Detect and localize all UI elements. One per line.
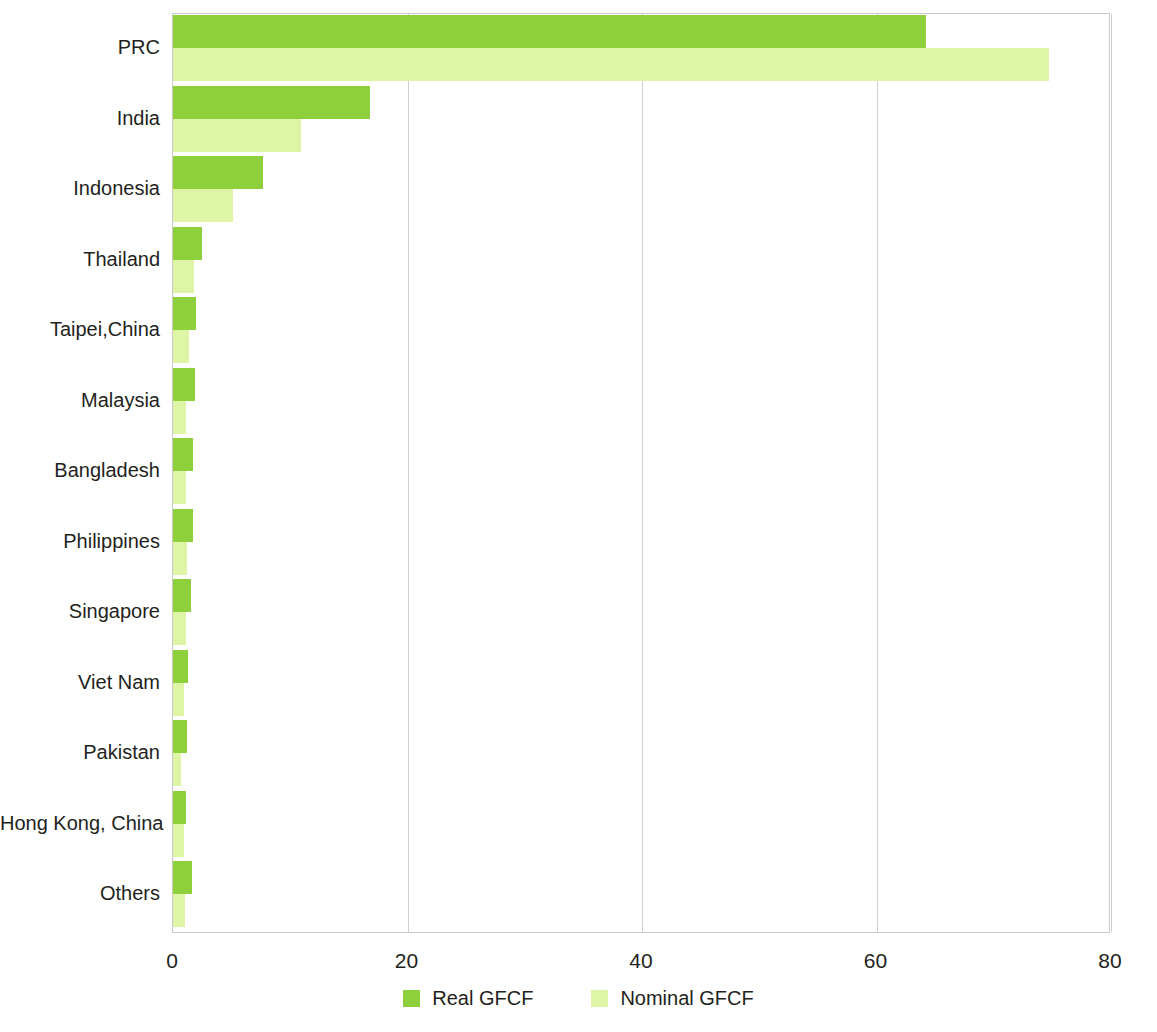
x-axis-tick-label: 40 [611,949,671,973]
y-axis-label: Hong Kong, China [0,811,160,835]
bar-group [173,438,1111,504]
bar-nominal [173,824,184,857]
bar-real [173,579,191,612]
bar-nominal [173,189,233,222]
bar-real [173,720,187,753]
x-axis-tick-label: 0 [142,949,202,973]
y-axis-label: Malaysia [0,388,160,412]
bar-real [173,156,263,189]
bar-nominal [173,260,194,293]
bar-nominal [173,612,186,645]
bar-group [173,368,1111,434]
bar-group [173,227,1111,293]
bar-group [173,86,1111,152]
bar-real [173,791,186,824]
bar-nominal [173,48,1049,81]
legend-label: Real GFCF [432,987,533,1009]
y-axis-label: Philippines [0,529,160,553]
x-axis-tick-label: 80 [1080,949,1140,973]
legend-item[interactable]: Real GFCF [403,987,533,1009]
bar-group [173,156,1111,222]
bar-group [173,791,1111,857]
bar-real [173,297,196,330]
bar-nominal [173,471,186,504]
y-axis-label: Others [0,881,160,905]
legend-item[interactable]: Nominal GFCF [591,987,753,1009]
y-axis-label: Bangladesh [0,458,160,482]
bar-real [173,368,195,401]
bar-nominal [173,330,189,363]
bar-group [173,650,1111,716]
bar-nominal [173,753,181,786]
bar-nominal [173,401,186,434]
y-axis-label: Indonesia [0,176,160,200]
legend-label: Nominal GFCF [620,987,753,1009]
bar-group [173,297,1111,363]
y-axis-label: India [0,106,160,130]
legend-swatch-real-icon [403,990,420,1007]
x-axis-tick-label: 20 [377,949,437,973]
y-axis-label: Taipei,China [0,317,160,341]
bar-nominal [173,894,185,927]
bar-group [173,861,1111,927]
bar-real [173,86,370,119]
bar-group [173,720,1111,786]
y-axis-label: Thailand [0,247,160,271]
bar-real [173,650,188,683]
y-axis-label: Singapore [0,599,160,623]
bar-real [173,438,193,471]
bar-real [173,15,926,48]
bar-group [173,15,1111,81]
legend-swatch-nominal-icon [591,990,608,1007]
gridline-80 [1111,14,1112,932]
bar-real [173,227,202,260]
chart-legend: Real GFCFNominal GFCF [0,978,1157,1018]
bar-nominal [173,542,187,575]
bar-nominal [173,683,184,716]
bar-group [173,579,1111,645]
bar-real [173,509,193,542]
x-axis-tick-label: 60 [846,949,906,973]
bar-nominal [173,119,301,152]
bar-real [173,861,192,894]
y-axis-category-labels: PRCIndiaIndonesiaThailandTaipei,ChinaMal… [0,0,160,1032]
bar-group [173,509,1111,575]
horizontal-bar-chart: PRCIndiaIndonesiaThailandTaipei,ChinaMal… [0,0,1157,1032]
y-axis-label: PRC [0,35,160,59]
y-axis-label: Pakistan [0,740,160,764]
y-axis-label: Viet Nam [0,670,160,694]
plot-area [172,13,1110,933]
